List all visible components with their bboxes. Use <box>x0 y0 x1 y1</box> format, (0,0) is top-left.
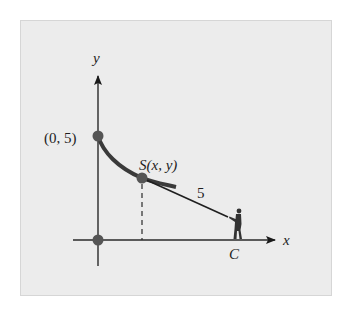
point-start <box>93 131 104 142</box>
x-axis-label: x <box>282 232 290 248</box>
person-icon <box>229 209 242 239</box>
start-point-label: (0, 5) <box>44 130 77 147</box>
tow-rope <box>142 178 228 217</box>
point-origin <box>93 235 104 246</box>
s-point-label: S(x, y) <box>139 157 177 174</box>
y-axis-label: y <box>91 50 100 66</box>
rope-length-label: 5 <box>197 185 205 201</box>
point-s <box>137 173 148 184</box>
c-point-label: C <box>229 246 240 262</box>
tractrix-diagram: y x (0, 5) S(x, y) 5 C <box>0 0 347 309</box>
